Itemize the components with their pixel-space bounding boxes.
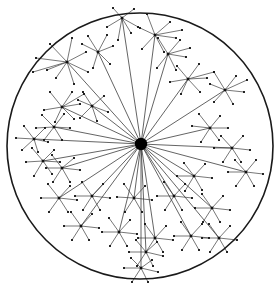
- leaf-node-c24-4: [109, 245, 111, 247]
- leaf-node-c11-3: [61, 139, 63, 141]
- cluster-node-c02: [154, 34, 157, 37]
- leaf-node-c22-2: [229, 209, 231, 211]
- cluster-node-c14: [61, 167, 64, 170]
- leaf-node-c28-4: [136, 265, 138, 267]
- cluster-node-c24: [118, 231, 121, 234]
- leaf-node-c11-0: [41, 114, 43, 116]
- cluster-node-c17: [193, 175, 196, 178]
- leaf-node-c27-2: [236, 239, 238, 241]
- leaf-node-c10-3: [218, 139, 220, 141]
- leaf-node-c21-0: [163, 181, 165, 183]
- leaf-node-c23-4: [71, 239, 73, 241]
- leaf-node-c09-5: [77, 99, 79, 101]
- cluster-node-c23: [80, 225, 83, 228]
- leaf-node-c12-3: [37, 151, 39, 153]
- leaf-node-c15-5: [213, 147, 215, 149]
- leaf-node-c13-0: [31, 147, 33, 149]
- network-graph-figure: [0, 0, 280, 292]
- leaf-node-c15-4: [222, 161, 224, 163]
- leaf-node-c19-5: [74, 195, 76, 197]
- leaf-node-c05-2: [185, 56, 187, 58]
- leaf-node-c06-2: [206, 77, 208, 79]
- leaf-node-c27-4: [209, 251, 211, 253]
- leaf-node-c23-5: [63, 225, 65, 227]
- leaf-node-c07-1: [235, 75, 237, 77]
- leaf-node-c01-0: [112, 7, 114, 9]
- cluster-node-c01: [121, 17, 124, 20]
- leaf-node-c27-1: [229, 225, 231, 227]
- leaf-node-c25-0: [144, 223, 146, 225]
- leaf-node-c14-5: [45, 167, 47, 169]
- leaf-node-c04-2: [112, 45, 114, 47]
- central-hub-layer: [135, 138, 147, 150]
- leaf-node-c18-3: [67, 211, 69, 213]
- leaf-node-c08-3: [73, 118, 75, 120]
- cluster-node-c26: [190, 235, 193, 238]
- leaf-node-c27-5: [201, 237, 203, 239]
- leaf-node-c02-5: [137, 26, 139, 28]
- cluster-node-c19: [91, 195, 94, 198]
- central-hub-node: [135, 138, 147, 150]
- leaf-node-c14-2: [79, 169, 81, 171]
- leaf-node-c02-1: [169, 21, 171, 23]
- leaf-node-c19-2: [109, 197, 111, 199]
- leaf-node-c19-4: [82, 209, 84, 211]
- leaf-node-c15-3: [240, 161, 242, 163]
- leaf-node-c08-2: [79, 103, 81, 105]
- leaf-node-c21-1: [184, 183, 186, 185]
- leaf-node-c12-1: [44, 127, 46, 129]
- leaf-node-c26-1: [201, 223, 203, 225]
- leaf-node-c23-0: [70, 211, 72, 213]
- cluster-node-c06: [187, 78, 190, 81]
- leaf-node-c06-1: [198, 63, 200, 65]
- leaf-node-c09-1: [103, 95, 105, 97]
- leaf-node-c16-5: [227, 171, 229, 173]
- cluster-node-c22: [211, 207, 214, 210]
- leaf-node-c29-4: [131, 281, 133, 283]
- cluster-node-c29: [140, 267, 143, 270]
- leaf-node-c03-7: [46, 69, 48, 71]
- leaf-node-c03-1: [71, 37, 73, 39]
- leaf-node-c21-3: [181, 209, 183, 211]
- leaf-node-c22-1: [222, 195, 224, 197]
- leaf-node-c13-2: [59, 161, 61, 163]
- leaf-node-c17-1: [204, 163, 206, 165]
- leaf-node-c10-2: [227, 127, 229, 129]
- leaf-node-c20-5: [116, 196, 118, 198]
- leaf-node-c12-4: [21, 149, 23, 151]
- cluster-node-c08: [61, 106, 64, 109]
- leaf-node-c09-4: [79, 117, 81, 119]
- leaf-node-c04-1: [106, 34, 108, 36]
- leaf-node-c09-3: [96, 120, 98, 122]
- leaf-node-c21-5: [156, 195, 158, 197]
- leaf-node-c15-2: [249, 149, 251, 151]
- leaf-node-c13-1: [53, 149, 55, 151]
- leaf-node-c04-3: [109, 63, 111, 65]
- leaf-node-c18-0: [47, 183, 49, 185]
- leaf-node-c25-1: [165, 225, 167, 227]
- leaf-node-c11-5: [35, 127, 37, 129]
- leaf-node-c19-1: [102, 183, 104, 185]
- leaf-node-c20-3: [141, 211, 143, 213]
- leaf-node-c02-3: [163, 51, 165, 53]
- leaf-node-c05-5: [189, 47, 191, 49]
- leaf-node-c09-0: [82, 91, 84, 93]
- leaf-node-c10-1: [219, 115, 221, 117]
- leaf-node-c20-4: [124, 211, 126, 213]
- leaf-node-c01-5: [139, 27, 141, 29]
- cluster-node-c13: [42, 160, 45, 163]
- leaf-node-c03-6: [35, 57, 37, 59]
- leaf-node-c22-4: [202, 221, 204, 223]
- leaf-node-c28-5: [128, 251, 130, 253]
- leaf-node-c23-1: [91, 213, 93, 215]
- cluster-node-c11: [53, 126, 56, 129]
- leaf-node-c03-5: [55, 77, 57, 79]
- leaf-node-c26-3: [198, 249, 200, 251]
- leaf-node-c25-3: [162, 251, 164, 253]
- leaf-node-c19-0: [81, 181, 83, 183]
- leaf-node-c11-4: [43, 139, 45, 141]
- cluster-node-c16: [245, 171, 248, 174]
- leaf-node-c03-2: [85, 51, 87, 53]
- leaf-node-c07-2: [243, 91, 245, 93]
- leaf-node-c18-4: [48, 211, 50, 213]
